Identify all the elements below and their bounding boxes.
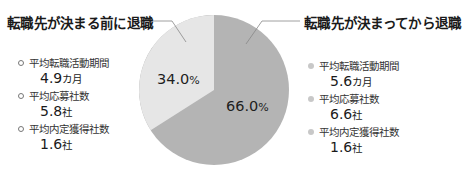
pie-label-66: 66.0%: [226, 98, 269, 114]
dot-bullet-icon: [308, 96, 314, 102]
stats-after-offer: 平均転職活動期間 5.6カ月 平均応募社数 6.6社 平均内定獲得社数 1.6社: [308, 58, 399, 157]
circle-bullet-icon: [18, 60, 24, 66]
stat-item: 平均応募社数 6.6社: [308, 91, 399, 124]
stat-item: 平均転職活動期間 4.9カ月: [18, 55, 109, 88]
circle-bullet-icon: [18, 126, 24, 132]
stats-before-offer: 平均転職活動期間 4.9カ月 平均応募社数 5.8社 平均内定獲得社数 1.6社: [18, 55, 109, 154]
stat-item: 平均内定獲得社数 1.6社: [308, 124, 399, 157]
stat-item: 平均内定獲得社数 1.6社: [18, 121, 109, 154]
stat-item: 平均転職活動期間 5.6カ月: [308, 58, 399, 91]
dot-bullet-icon: [308, 63, 314, 69]
dot-bullet-icon: [308, 129, 314, 135]
circle-bullet-icon: [18, 93, 24, 99]
pie-label-34: 34.0%: [157, 71, 200, 87]
legend-title-before-offer: 転職先が決まる前に退職: [7, 12, 153, 32]
stat-item: 平均応募社数 5.8社: [18, 88, 109, 121]
legend-title-after-offer: 転職先が決まってから退職: [304, 12, 462, 32]
